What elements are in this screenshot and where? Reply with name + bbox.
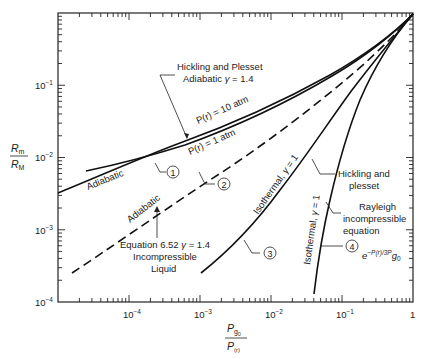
svg-text:3: 3 bbox=[267, 249, 272, 259]
x-tick-1e-3: 10−3 bbox=[194, 308, 212, 320]
y-tick-1e-3: 10−3 bbox=[35, 224, 53, 236]
log-log-chart: 10−4 10−3 10−2 10−1 1 10−1 10−2 10−3 10−… bbox=[0, 0, 425, 359]
y-tick-1e-2: 10−2 bbox=[35, 151, 53, 163]
rayleigh-label-line3: equation bbox=[343, 225, 379, 236]
svg-text:Pg0: Pg0 bbox=[227, 322, 241, 337]
hp-isothermal-label-line1: Hickling and bbox=[338, 168, 390, 179]
x-tick-1e-1: 10−1 bbox=[336, 308, 354, 320]
x-tick-1e-2: 10−2 bbox=[265, 308, 283, 320]
eq652-label-line2: Incompressible bbox=[133, 251, 197, 262]
hp-adiabatic-label-line2: Adiabatic γ = 1.4 bbox=[183, 73, 254, 84]
x-tick-1e-4: 10−4 bbox=[123, 308, 141, 320]
hp-adiabatic-label-line1: Hickling and Plesset bbox=[177, 61, 263, 72]
hp-isothermal-label-line2: plesset bbox=[349, 180, 379, 191]
x-axis-ticks-bottom bbox=[79, 295, 409, 302]
y-tick-1e-4: 10−4 bbox=[35, 296, 53, 308]
svg-text:4: 4 bbox=[349, 242, 354, 252]
svg-text:RM: RM bbox=[11, 158, 25, 171]
hp-leader bbox=[160, 75, 187, 138]
rayleigh-label-line1: Rayleigh bbox=[359, 201, 396, 212]
y-tick-1e-1: 10−1 bbox=[35, 79, 53, 91]
y-tick-labels: 10−1 10−2 10−3 10−4 bbox=[35, 79, 53, 308]
svg-text:1: 1 bbox=[170, 168, 175, 178]
eq652-label-line3: Liquid bbox=[151, 263, 176, 274]
exp-expression: e−P(r)/3Pg0 bbox=[362, 249, 401, 262]
svg-text:Rm: Rm bbox=[11, 142, 25, 155]
isothermal-label-hp: Isothermal, γ = 1 bbox=[251, 152, 300, 216]
y-axis-ticks-left bbox=[58, 16, 65, 280]
svg-text:P(r): P(r) bbox=[227, 340, 240, 353]
p10-label: P(r) = 10 atm bbox=[194, 93, 249, 126]
annotations: Hickling and Plesset Adiabatic γ = 1.4 P… bbox=[85, 61, 407, 274]
rayleigh-label-line2: incompressible bbox=[343, 213, 406, 224]
y-axis-ticks-right bbox=[406, 16, 413, 280]
x-tick-labels: 10−4 10−3 10−2 10−1 1 bbox=[123, 308, 415, 320]
x-axis-label: Pg0 P(r) bbox=[225, 322, 247, 353]
eq652-label-line1: Equation 6.52 γ = 1.4 bbox=[120, 239, 210, 250]
svg-text:2: 2 bbox=[221, 180, 226, 190]
y-axis-label: Rm RM bbox=[10, 142, 28, 171]
x-axis-ticks-top bbox=[79, 13, 409, 20]
x-tick-1: 1 bbox=[410, 309, 415, 320]
